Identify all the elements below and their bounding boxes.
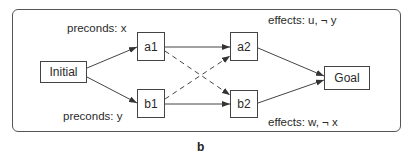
a2-effects-label: effects: u, ¬ y bbox=[268, 14, 337, 26]
figure-caption: b bbox=[197, 140, 204, 154]
node-initial: Initial bbox=[40, 61, 87, 83]
edge-b1-a2-dashed bbox=[165, 56, 230, 99]
node-b2: b2 bbox=[230, 90, 258, 118]
b2-effects-label: effects: w, ¬ x bbox=[268, 116, 338, 128]
node-goal: Goal bbox=[324, 66, 370, 90]
node-a1: a1 bbox=[137, 32, 165, 61]
edge-initial-b1 bbox=[87, 77, 137, 103]
a1-preconds-label: preconds: x bbox=[67, 22, 126, 34]
edge-a1-b2-dashed bbox=[165, 51, 230, 95]
edge-a2-goal bbox=[258, 48, 324, 76]
node-a2: a2 bbox=[230, 32, 258, 61]
b1-preconds-label: preconds: y bbox=[63, 110, 122, 122]
edge-initial-a1 bbox=[87, 47, 137, 68]
edge-b2-goal bbox=[258, 80, 324, 103]
node-b1: b1 bbox=[137, 89, 165, 118]
